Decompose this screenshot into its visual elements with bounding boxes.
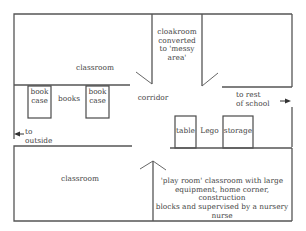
arrow-to-outside-icon bbox=[14, 132, 24, 137]
classroom-bottom-door bbox=[140, 161, 153, 169]
label-lego: Lego bbox=[196, 127, 223, 136]
cloakroom-door bbox=[202, 73, 218, 86]
play-room-door bbox=[153, 161, 166, 170]
arrow-to-rest-of-school-icon bbox=[280, 99, 291, 104]
classroom-top-door bbox=[136, 72, 152, 84]
label-books: books bbox=[52, 95, 86, 104]
label-to-outside: to outside bbox=[25, 128, 65, 145]
label-to-rest-of-school: to rest of school bbox=[236, 91, 278, 108]
label-storage: storage bbox=[223, 127, 253, 136]
label-play-room: 'play room' classroom with large equipme… bbox=[153, 177, 291, 221]
label-corridor: corridor bbox=[130, 94, 176, 103]
label-cloakroom: cloakroom converted to 'messy area' bbox=[152, 28, 202, 63]
label-classroom-bottom: classroom bbox=[45, 175, 115, 184]
label-bookcase-left: book case bbox=[28, 88, 51, 105]
label-bookcase-right: book case bbox=[86, 88, 109, 105]
label-classroom-top: classroom bbox=[55, 64, 135, 73]
cloakroom-walls bbox=[202, 14, 292, 87]
label-table: table bbox=[175, 127, 196, 136]
